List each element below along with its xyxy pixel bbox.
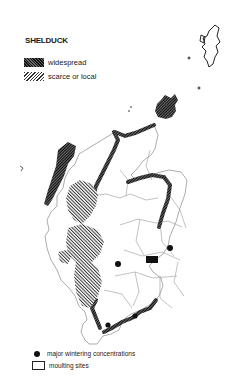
legend-moulting: moulting sites (32, 361, 89, 370)
legend-moulting-label: moulting sites (49, 362, 89, 369)
wintering-dot-icon (34, 351, 40, 357)
scotland-map (0, 0, 235, 382)
legend-wintering-label: major wintering concentrations (47, 350, 135, 357)
shetland-islands (188, 25, 220, 89)
legend-wintering: major wintering concentrations (32, 350, 135, 357)
mainland-scotland (20, 125, 187, 344)
moulting-box-icon (32, 361, 45, 370)
orkney-islands (128, 94, 178, 119)
